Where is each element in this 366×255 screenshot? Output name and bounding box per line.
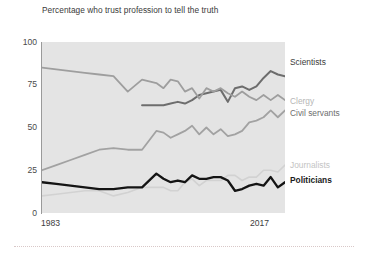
series-lines [42,42,285,213]
bottom-dotted-rule [14,246,354,248]
series-label-journalists: Journalists [290,160,330,170]
y-axis-tick-labels: 100 75 50 25 0 [0,0,37,255]
y-tick-75: 75 [3,79,37,89]
y-tick-25: 25 [3,165,37,175]
series-path-clergy [42,68,285,100]
y-tick-50: 50 [3,122,37,132]
y-tick-100: 100 [3,37,37,47]
x-tick-1983: 1983 [41,218,60,228]
series-label-civil-servants: Civil servants [290,108,340,118]
x-tick-2017: 2017 [250,218,269,228]
series-label-clergy: Clergy [290,96,314,106]
series-path-journalists [42,165,285,196]
series-label-scientists: Scientists [290,57,326,67]
series-path-civil-servants [42,110,285,170]
y-tick-0: 0 [3,208,37,218]
series-label-politicians: Politicians [290,175,332,185]
chart-title: Percentage who trust profession to tell … [42,5,218,15]
chart-figure: Percentage who trust profession to tell … [0,0,366,255]
